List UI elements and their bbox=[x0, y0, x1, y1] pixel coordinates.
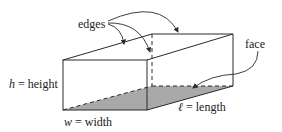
length-text: = length bbox=[183, 100, 226, 114]
edges-arrows bbox=[108, 12, 178, 52]
length-label: ℓ = length bbox=[178, 100, 226, 114]
height-text: = height bbox=[15, 77, 58, 91]
rectangular-box-diagram: edges face h = height w = width ℓ = leng… bbox=[0, 0, 282, 132]
width-label: w = width bbox=[64, 115, 112, 129]
width-text: = width bbox=[72, 115, 112, 129]
face-arrow bbox=[193, 51, 258, 88]
edges-label: edges bbox=[78, 17, 106, 31]
height-label: h = height bbox=[9, 77, 58, 91]
width-variable: w bbox=[64, 115, 72, 129]
face-label: face bbox=[245, 37, 265, 51]
